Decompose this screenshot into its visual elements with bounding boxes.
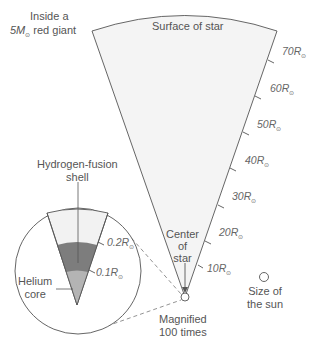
shell-label: Hydrogen-fusion shell [37,158,118,184]
magnified-label: Magnified 100 times [159,313,207,339]
title-line1: Inside a [30,10,69,23]
tick-label-30: 30R⊙ [232,190,256,204]
sun-size-icon [260,273,269,282]
title-suffix: red giant [30,24,76,36]
inset-tick-label-01: 0.1R⊙ [96,266,123,280]
tick-label-50: 50R⊙ [257,118,281,132]
tick-label-60: 60R⊙ [270,82,294,96]
core-label: Helium core [18,275,52,301]
center-label: Center of star [166,228,199,264]
tick-label-40: 40R⊙ [245,154,269,168]
sun-label: Size of the sun [247,285,283,311]
title-mass: 5M [10,24,25,36]
surface-label: Surface of star [152,20,224,33]
title-line2: 5M⊙ red giant [10,24,76,42]
tick-10 [198,265,203,268]
tick-label-70: 70R⊙ [282,45,306,59]
magnify-spot [181,293,189,301]
tick-label-10: 10R⊙ [207,262,231,276]
inset-tick-label-02: 0.2R⊙ [107,236,134,250]
tick-label-20: 20R⊙ [219,226,243,240]
